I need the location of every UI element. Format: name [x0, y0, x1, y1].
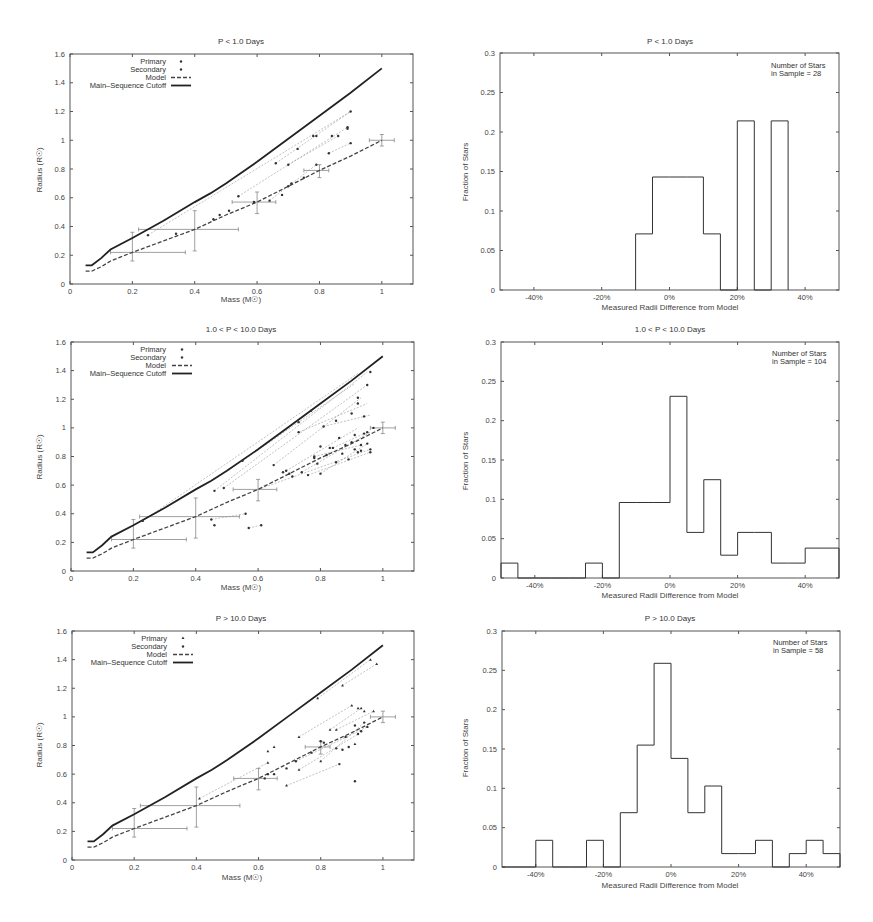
svg-text:0.4: 0.4 [191, 863, 201, 872]
svg-text:0.05: 0.05 [481, 534, 496, 543]
svg-text:0.1: 0.1 [486, 495, 496, 504]
svg-text:1: 1 [381, 863, 385, 872]
cutoff-curve [86, 68, 382, 265]
svg-text:0.8: 0.8 [315, 574, 325, 583]
svg-text:0.2: 0.2 [128, 574, 138, 583]
svg-text:0.4: 0.4 [191, 574, 201, 583]
svg-text:1: 1 [63, 712, 67, 721]
svg-text:0: 0 [62, 567, 66, 576]
svg-text:20%: 20% [730, 581, 745, 590]
hist-ylabel-2: Fraction of Stars [461, 432, 470, 491]
svg-text:1: 1 [61, 136, 65, 145]
scatter-ylabel-1: Radius (R☉) [35, 147, 44, 193]
legend-3: Primary Secondary Model Main–Sequence Cu… [91, 634, 193, 667]
svg-text:0: 0 [61, 280, 65, 289]
svg-text:0: 0 [491, 286, 495, 295]
svg-text:1.2: 1.2 [57, 684, 67, 693]
hist-xlabel-2: Measured Radii Difference from Model [602, 591, 739, 600]
svg-text:1: 1 [381, 574, 385, 583]
svg-text:1: 1 [380, 287, 384, 296]
scatter-title-1: P < 1.0 Days [218, 37, 264, 46]
svg-text:1.4: 1.4 [57, 655, 67, 664]
histogram-3: -40%-20%0%20%40%00.050.10.150.20.250.3 [482, 627, 840, 880]
svg-text:-20%: -20% [593, 293, 611, 302]
cutoff-curve [88, 645, 383, 841]
svg-text:0.05: 0.05 [480, 246, 495, 255]
svg-text:0.15: 0.15 [481, 456, 496, 465]
svg-text:0.2: 0.2 [57, 827, 67, 836]
svg-text:-40%: -40% [526, 581, 544, 590]
svg-text:0.2: 0.2 [56, 538, 66, 547]
svg-text:0%: 0% [666, 870, 677, 879]
svg-text:0: 0 [492, 574, 496, 583]
scatter-xlabel-3: Mass (M☉) [222, 873, 263, 882]
histogram-1: -40%-20%0%20%40%00.050.10.150.20.250.3 [480, 49, 839, 303]
svg-text:-20%: -20% [595, 870, 613, 879]
legend-cutoff-label: Main–Sequence Cutoff [90, 81, 167, 90]
svg-text:0: 0 [69, 574, 73, 583]
histogram-2: -40%-20%0%20%40%00.050.10.150.20.250.3 [481, 338, 839, 591]
svg-text:0.4: 0.4 [190, 287, 200, 296]
histogram-steps [502, 663, 840, 867]
svg-text:0.8: 0.8 [57, 741, 67, 750]
svg-text:0.6: 0.6 [253, 863, 263, 872]
hist-ylabel-3: Fraction of Stars [461, 719, 470, 778]
hist-annotation-2b: in Sample = 104 [772, 357, 826, 366]
hist-annotation-1b: in Sample = 28 [771, 69, 821, 78]
svg-text:0.4: 0.4 [55, 222, 65, 231]
svg-text:0.6: 0.6 [56, 481, 66, 490]
svg-text:0.05: 0.05 [482, 823, 497, 832]
svg-text:0: 0 [63, 856, 67, 865]
hist-xlabel-1: Measured Radii Difference from Model [602, 303, 739, 312]
svg-text:-40%: -40% [525, 293, 543, 302]
hist-annotation-3b: in Sample = 58 [773, 646, 823, 655]
scatter-ylabel-3: Radius (R☉) [35, 722, 44, 768]
svg-text:0.2: 0.2 [129, 863, 139, 872]
svg-text:0: 0 [68, 287, 72, 296]
svg-text:-20%: -20% [594, 581, 612, 590]
svg-text:1.4: 1.4 [56, 366, 66, 375]
svg-text:0.25: 0.25 [480, 88, 495, 97]
legend-1: Primary Secondary Model Main–Sequence Cu… [90, 57, 191, 90]
hist-ylabel-1: Fraction of Stars [461, 143, 470, 202]
svg-text:0.15: 0.15 [482, 745, 497, 754]
svg-text:-40%: -40% [527, 870, 545, 879]
svg-text:0.3: 0.3 [485, 49, 495, 58]
svg-text:1: 1 [62, 423, 66, 432]
svg-text:1.4: 1.4 [55, 78, 65, 87]
svg-text:0.3: 0.3 [487, 627, 497, 636]
svg-text:0: 0 [493, 863, 497, 872]
svg-text:0.8: 0.8 [56, 452, 66, 461]
svg-text:0%: 0% [664, 293, 675, 302]
svg-text:0.6: 0.6 [57, 770, 67, 779]
model-curve [87, 428, 383, 558]
svg-text:40%: 40% [798, 581, 813, 590]
scatter-ylabel-2: Radius (R☉) [35, 434, 44, 480]
svg-text:20%: 20% [730, 293, 745, 302]
svg-text:0.2: 0.2 [486, 416, 496, 425]
svg-text:0.1: 0.1 [487, 784, 497, 793]
legend-cutoff-label: Main–Sequence Cutoff [90, 369, 167, 378]
svg-text:0: 0 [70, 863, 74, 872]
scatter-xlabel-2: Mass (M☉) [221, 583, 262, 592]
svg-text:40%: 40% [798, 293, 813, 302]
svg-text:0.1: 0.1 [485, 207, 495, 216]
model-curve [88, 717, 383, 847]
svg-text:1.6: 1.6 [55, 50, 65, 59]
svg-text:40%: 40% [799, 870, 814, 879]
svg-text:0.3: 0.3 [486, 338, 496, 347]
svg-text:0.6: 0.6 [253, 574, 263, 583]
svg-text:0.8: 0.8 [314, 287, 324, 296]
svg-text:0.15: 0.15 [480, 167, 495, 176]
svg-text:1.2: 1.2 [56, 395, 66, 404]
hist-xlabel-3: Measured Radii Difference from Model [602, 881, 739, 890]
svg-text:1.6: 1.6 [57, 627, 67, 636]
scatter-title-3: P > 10.0 Days [216, 614, 266, 623]
legend-cutoff-label: Main–Sequence Cutoff [91, 658, 168, 667]
svg-text:0.4: 0.4 [57, 798, 67, 807]
svg-text:0.2: 0.2 [55, 251, 65, 260]
svg-text:0%: 0% [665, 581, 676, 590]
svg-text:0.4: 0.4 [56, 509, 66, 518]
cutoff-curve [87, 356, 383, 552]
svg-text:0.8: 0.8 [316, 863, 326, 872]
